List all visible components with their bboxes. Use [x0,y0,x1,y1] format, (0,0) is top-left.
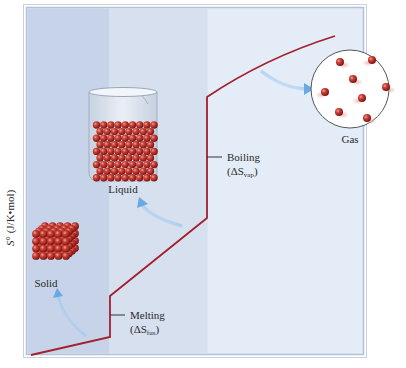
melting-delta-label: (ΔSfus) [130,323,159,337]
y-axis-label: S° (J/K•mol) [4,189,17,246]
gas-label: Gas [341,133,358,145]
melting-label: Melting [130,309,165,321]
solid-label: Solid [34,277,58,289]
solid-cube-illustration [32,222,79,259]
liquid-beaker-illustration [89,88,158,182]
gas-circle-illustration [311,50,396,128]
entropy-phase-diagram: S° (J/K•mol) Melting (ΔSfus) Boiling (ΔS… [0,0,406,368]
plot-frame [24,5,367,358]
boiling-delta-label: (ΔSvap) [227,165,258,179]
boiling-label: Boiling [227,151,261,163]
liquid-label: Liquid [108,183,138,195]
